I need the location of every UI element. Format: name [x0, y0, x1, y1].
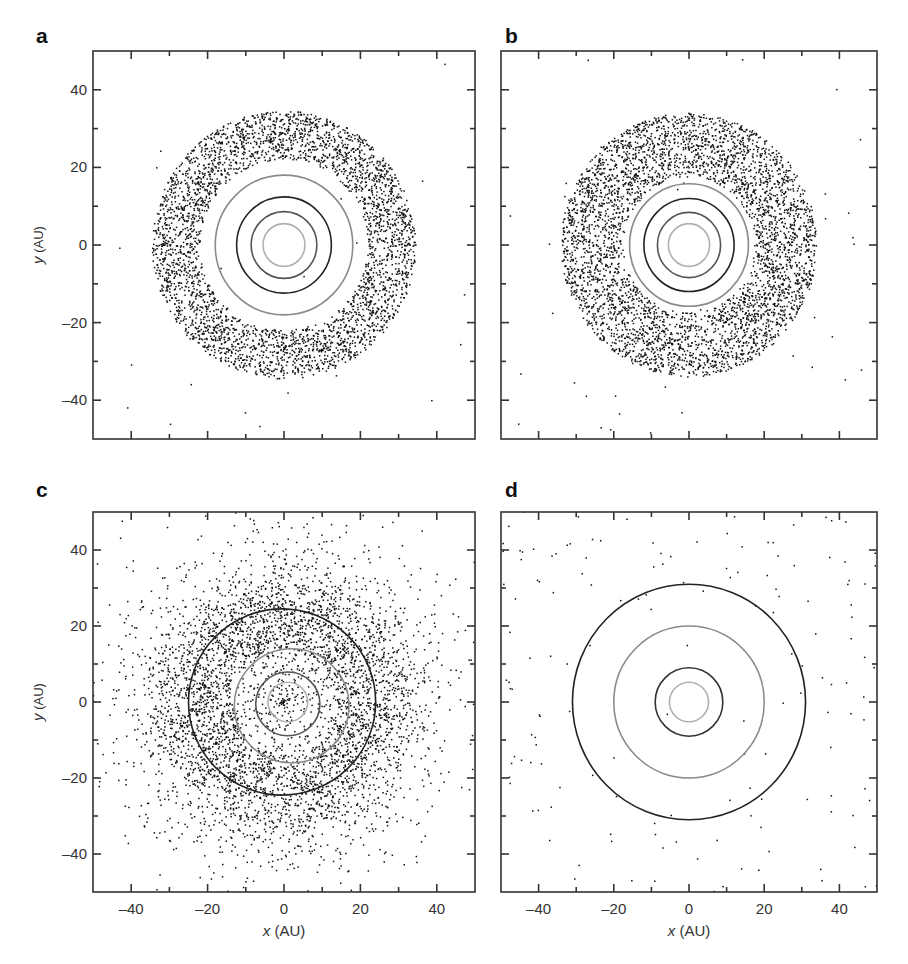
orbit-circle [630, 184, 749, 307]
y-tick-label: 40 [70, 81, 87, 98]
axes-frame [501, 51, 877, 439]
orbit-circle [268, 682, 308, 722]
plot-area [119, 64, 465, 428]
x-tick-label: 20 [756, 900, 773, 917]
x-tick-label: –40 [119, 900, 144, 917]
panel-label-b: b [505, 24, 518, 48]
y-tick-label: –40 [62, 845, 87, 862]
orbit-circle [572, 584, 805, 820]
orbit-circle [614, 626, 764, 778]
y-tick-label: 40 [70, 541, 87, 558]
y-tick-label: 0 [79, 236, 87, 253]
y-tick-label: –20 [62, 769, 87, 786]
scatter-plot-b [501, 51, 877, 439]
panel-label-d: d [505, 478, 518, 502]
particles [510, 59, 863, 434]
orbit-circle [655, 668, 723, 736]
scatter-plot-a: –40–2002040y (AU) [93, 51, 475, 439]
y-tick-label: –20 [62, 314, 87, 331]
y-axis-label: y (AU) [29, 226, 46, 265]
x-axis-label: x (AU) [667, 922, 711, 939]
plot-area [502, 511, 877, 892]
orbit-circle [657, 212, 720, 277]
axes-frame [93, 51, 475, 439]
orbit-circle [263, 224, 305, 267]
y-tick-label: 20 [70, 617, 87, 634]
y-tick-label: 20 [70, 158, 87, 175]
axes-frame [501, 512, 877, 892]
y-tick-label: –40 [62, 391, 87, 408]
particles [54, 441, 495, 964]
x-tick-label: –20 [601, 900, 626, 917]
x-tick-label: 40 [428, 900, 445, 917]
x-tick-label: 0 [280, 900, 288, 917]
x-tick-label: –20 [195, 900, 220, 917]
plot-area [510, 59, 863, 434]
scatter-plot-d: –40–2002040x (AU) [501, 512, 877, 892]
y-axis-label: y (AU) [29, 683, 46, 722]
scatter-plot-c: –40–2002040–40–2002040x (AU)y (AU) [93, 512, 475, 892]
x-tick-label: 20 [352, 900, 369, 917]
orbit-circle [668, 224, 709, 267]
y-tick-label: 0 [79, 693, 87, 710]
x-tick-label: 40 [831, 900, 848, 917]
particles [502, 511, 877, 892]
panel-label-c: c [36, 478, 48, 502]
orbit-circle [669, 682, 708, 722]
orbit-circle [251, 212, 317, 279]
x-tick-label: 0 [685, 900, 693, 917]
x-tick-label: –40 [526, 900, 551, 917]
x-axis-label: x (AU) [262, 922, 306, 939]
orbit-circle [234, 649, 349, 763]
panel-label-a: a [36, 24, 48, 48]
plot-area [54, 441, 495, 964]
particles [119, 64, 465, 428]
